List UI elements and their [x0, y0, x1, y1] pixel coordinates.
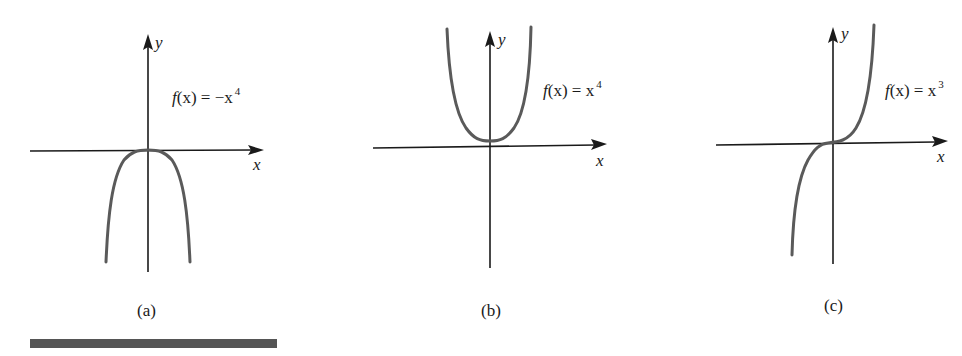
panel-caption: (c): [824, 296, 843, 315]
function-label: f(x) = −x4: [172, 85, 241, 107]
x-axis-label: x: [252, 155, 261, 174]
x-axis-label: x: [595, 151, 604, 170]
function-body: (x) = −x: [177, 88, 233, 107]
y-axis-label: y: [153, 33, 163, 52]
function-body: (x) = x: [890, 81, 937, 100]
function-exponent: 3: [938, 78, 944, 90]
y-axis-label: y: [496, 30, 506, 49]
function-label: f(x) = x4: [543, 78, 602, 100]
panel-c: y x f(x) = x3 (c): [716, 24, 948, 315]
function-exponent: 4: [235, 85, 241, 97]
section-divider-bar: [30, 339, 277, 348]
panel-b: y x f(x) = x4 (b): [373, 27, 607, 320]
x-axis-label: x: [936, 147, 945, 166]
function-label: f(x) = x3: [885, 78, 944, 100]
panel-a: y x f(x) = −x4 (a): [30, 33, 264, 320]
panel-caption: (b): [481, 301, 501, 320]
panel-caption: (a): [137, 301, 156, 320]
y-axis-label: y: [839, 24, 849, 43]
function-body: (x) = x: [548, 81, 595, 100]
function-exponent: 4: [596, 78, 602, 90]
power-functions-figure: y x f(x) = −x4 (a) y x f(x) = x4 (b): [0, 0, 962, 356]
x-axis: [373, 145, 595, 148]
